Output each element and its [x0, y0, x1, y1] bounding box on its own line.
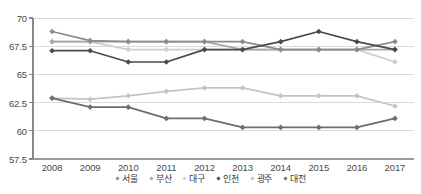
legend-item-부산[interactable]: 부산 [149, 172, 172, 185]
legend-item-인천[interactable]: 인천 [216, 172, 239, 185]
legend-label: 광주 [257, 172, 273, 185]
legend-item-대구[interactable]: 대구 [182, 172, 205, 185]
legend-item-대전[interactable]: 대전 [283, 172, 306, 185]
legend-marker-icon [149, 176, 154, 181]
legend-marker-icon [216, 176, 221, 181]
legend-label: 부산 [156, 172, 172, 185]
legend-label: 대전 [290, 172, 306, 185]
chart-legend: 서울부산대구인천광주대전 [0, 172, 421, 185]
legend-marker-icon [115, 176, 120, 181]
legend-label: 인천 [223, 172, 239, 185]
line-chart: 7067.56562.56057.5 200820092010201120122… [0, 0, 421, 194]
x-axis: 2008200920102011201220132014201520162017 [0, 0, 421, 194]
legend-item-서울[interactable]: 서울 [115, 172, 138, 185]
legend-label: 대구 [189, 172, 205, 185]
legend-marker-icon [250, 176, 255, 181]
legend-label: 서울 [122, 172, 138, 185]
legend-marker-icon [182, 176, 187, 181]
legend-item-광주[interactable]: 광주 [250, 172, 273, 185]
legend-marker-icon [283, 176, 288, 181]
